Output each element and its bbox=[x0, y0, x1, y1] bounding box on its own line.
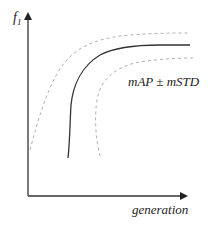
y-axis-label: f1 bbox=[13, 10, 21, 27]
lower-std-curve bbox=[96, 58, 195, 156]
mean-curve bbox=[68, 45, 190, 158]
convergence-diagram: f1 mAP ± mSTD generation bbox=[0, 0, 211, 225]
band-annotation: mAP ± mSTD bbox=[128, 74, 200, 89]
x-axis-label: generation bbox=[132, 202, 188, 217]
